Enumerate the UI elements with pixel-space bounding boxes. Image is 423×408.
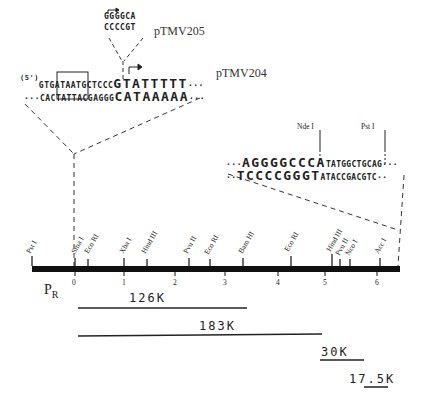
bottom-tail: ·· [377,173,388,182]
restriction-site-ticks [32,254,380,266]
promoter-label: PR [44,282,58,300]
right-inset-bottom-strand: ··TCCCCGGGTATACCGACGTC·· [226,166,388,184]
nde-i-label: Nde I [297,122,314,131]
protein-label-30k: 30K [321,345,349,359]
scale-4: 4 [276,278,280,287]
scale-ticks [75,272,377,276]
scale-3: 3 [223,278,227,287]
bottom-left-seq: CAC [40,94,56,103]
scale-2: 2 [173,278,177,287]
scale-6: 6 [375,278,379,287]
bottom-small: ATACCGACGTC [321,173,377,182]
bottom-lead: ··· [24,94,40,103]
bottom-big-seq: CATAAAAA [114,89,189,104]
diagram-linework [0,0,423,408]
protein-label-126k: 126K [129,291,166,305]
ptmv205-label: pTMV205 [154,24,205,39]
line-183k [78,334,322,336]
ptmv204-connector [25,98,200,266]
bottom-lead: ·· [226,173,237,182]
five-prime-label: (5') [20,74,39,82]
ptmv205-top-strand: GGGGCA [104,12,136,21]
ptmv205-bottom-strand: CCCCGT [104,23,136,32]
pst-i-label: Pst I [361,122,375,131]
bottom-big: TCCCCGGGT [237,168,321,183]
ptmv204-label: pTMV204 [216,66,267,81]
ptmv204-bottom-strand: ···CACTATTACGAGGGCATAAAAA··· [24,87,205,105]
bottom-box-seq: TATTA [56,94,83,103]
scale-0: 0 [72,278,76,287]
genome-map-bar [32,266,400,272]
promoter-p: P [44,282,52,297]
transcription-start-arrow-204 [129,64,142,74]
protein-label-183k: 183K [199,319,236,333]
promoter-r: R [52,289,59,300]
protein-label-17-5k: 17.5K [349,372,395,386]
scale-5: 5 [323,278,327,287]
bottom-tail: ··· [189,94,205,103]
bottom-mid-seq: CGAGGG [83,94,115,103]
scale-1: 1 [122,278,126,287]
